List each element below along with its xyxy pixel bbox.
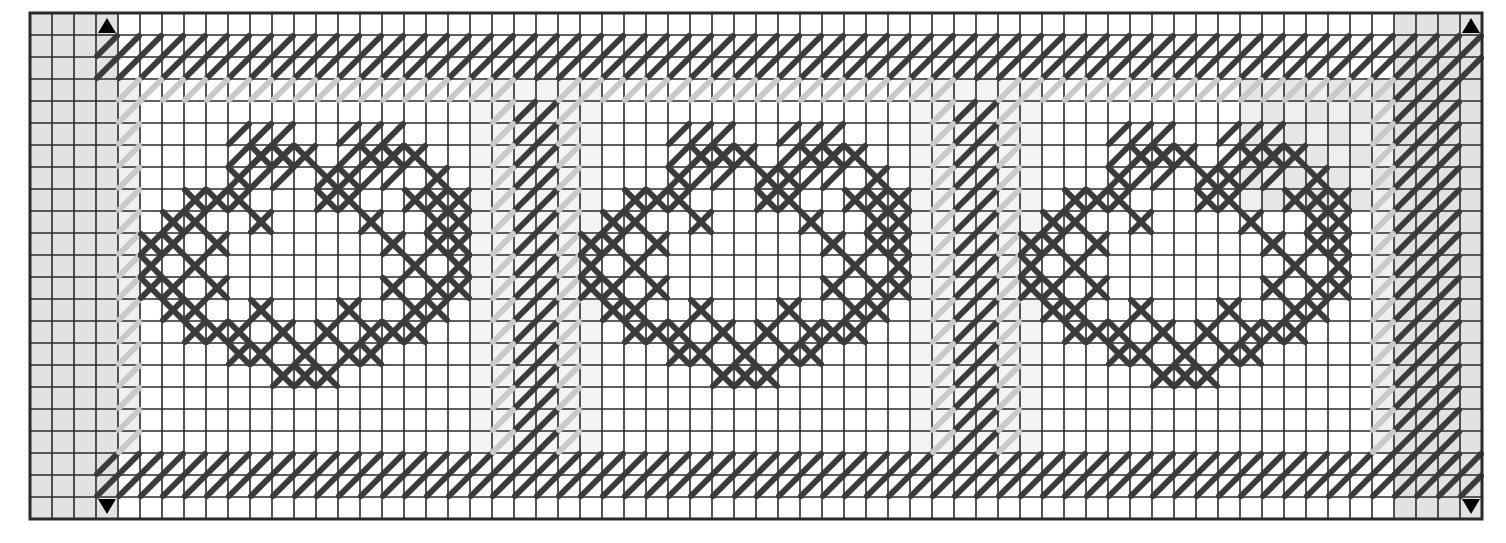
pattern-chart-root	[0, 0, 1506, 543]
needlepoint-pattern-svg	[0, 0, 1506, 543]
checker-cell	[1328, 167, 1350, 189]
checker-cell	[1350, 145, 1372, 167]
checker-cell	[1284, 167, 1306, 189]
checker-cell	[1306, 101, 1328, 123]
checker-cell	[1284, 123, 1306, 145]
checker-cell	[1262, 189, 1284, 211]
checker-cell	[1262, 101, 1284, 123]
checker-cell	[1350, 189, 1372, 211]
checker-cell	[1328, 123, 1350, 145]
checker-cell	[1306, 145, 1328, 167]
checker-cell	[1350, 101, 1372, 123]
